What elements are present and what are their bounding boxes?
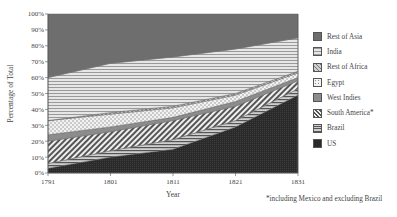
- y-tick-label: 100%: [28, 10, 45, 18]
- legend-swatch-icon: [313, 63, 322, 72]
- y-tick-label: 30%: [31, 122, 44, 130]
- legend-label: Egypt: [327, 79, 344, 87]
- legend-swatch-icon: [313, 139, 322, 148]
- legend-item: India: [313, 44, 374, 59]
- legend-swatch-icon: [313, 93, 322, 102]
- y-tick-label: 80%: [31, 42, 44, 50]
- legend-swatch-icon: [313, 124, 322, 133]
- y-axis-title: Percentage of Total: [6, 64, 15, 122]
- y-tick-label: 10%: [31, 154, 44, 162]
- x-axis-title: Year: [166, 190, 180, 199]
- legend-label: India: [327, 48, 342, 56]
- legend-item: Rest of Asia: [313, 29, 374, 44]
- y-tick-label: 50%: [31, 90, 44, 98]
- legend-label: Rest of Africa: [327, 63, 367, 71]
- legend-swatch-icon: [313, 32, 322, 41]
- y-tick-label: 90%: [31, 26, 44, 34]
- legend-item: South America*: [313, 105, 374, 120]
- x-tick-label: 1791: [41, 178, 56, 186]
- legend-swatch-icon: [313, 78, 322, 87]
- x-tick-label: 1821: [229, 178, 244, 186]
- x-tick-label: 1831: [291, 178, 306, 186]
- y-tick-label: 60%: [31, 74, 44, 82]
- footnote: *including Mexico and excluding Brazil: [266, 195, 382, 203]
- y-tick-label: 40%: [31, 106, 44, 114]
- legend-item: Rest of Africa: [313, 60, 374, 75]
- y-tick-label: 70%: [31, 58, 44, 66]
- legend: Rest of AsiaIndiaRest of AfricaEgyptWest…: [313, 29, 374, 151]
- legend-label: Brazil: [327, 124, 345, 132]
- legend-swatch-icon: [313, 109, 322, 118]
- legend-swatch-icon: [313, 47, 322, 56]
- legend-item: US: [313, 136, 374, 151]
- legend-item: Brazil: [313, 121, 374, 136]
- x-tick-label: 1811: [166, 178, 180, 186]
- legend-item: West Indies: [313, 90, 374, 105]
- legend-label: South America*: [327, 109, 374, 117]
- plot-area: [48, 14, 298, 173]
- y-tick-label: 20%: [31, 138, 44, 146]
- legend-label: West Indies: [327, 94, 361, 102]
- y-tick-label: 0%: [35, 169, 45, 177]
- legend-label: Rest of Asia: [327, 33, 362, 41]
- legend-item: Egypt: [313, 75, 374, 90]
- legend-label: US: [327, 140, 336, 148]
- x-tick-label: 1801: [104, 178, 119, 186]
